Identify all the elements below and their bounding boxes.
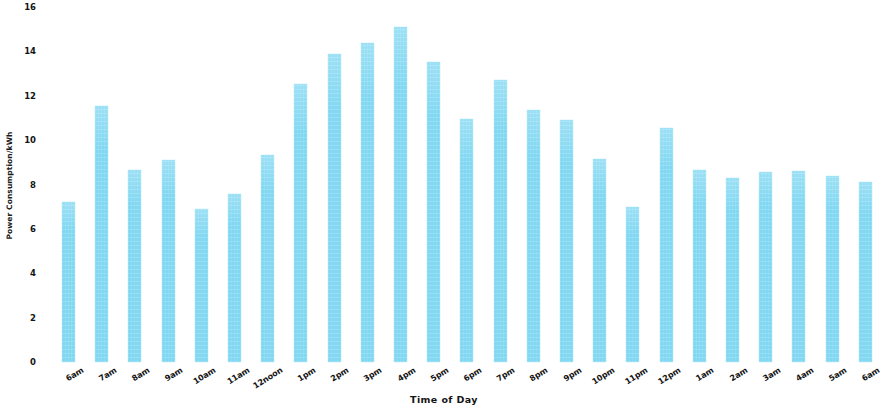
- x-axis-tick-labels: 6am7am8am9am10am11am12noon1pm2pm3pm4pm5p…: [44, 363, 888, 395]
- x-axis-tick-label: 8am: [126, 366, 147, 384]
- bar: [494, 80, 507, 362]
- x-axis-tick-label: 6pm: [457, 366, 478, 384]
- x-axis-tick-label: 12noon: [247, 366, 280, 391]
- x-axis-tick-label: 5am: [823, 366, 844, 384]
- y-axis-tick-0: 0: [30, 357, 36, 367]
- bar: [626, 207, 639, 362]
- x-axis-tick-label: 10pm: [586, 366, 612, 387]
- bar: [859, 182, 872, 362]
- x-axis-tick-label: 11pm: [619, 366, 645, 387]
- bar: [294, 84, 307, 362]
- bar: [228, 194, 241, 362]
- x-axis-tick-label: 9am: [159, 366, 180, 384]
- x-axis-tick-label: 3am: [757, 366, 778, 384]
- x-axis-tick-label: 10am: [188, 366, 214, 387]
- bar: [759, 172, 772, 362]
- bar: [527, 110, 540, 362]
- x-axis-tick-label: 1pm: [291, 366, 312, 384]
- x-axis-tick-label: 4am: [790, 366, 811, 384]
- y-axis-tick-10: 10: [24, 135, 36, 145]
- x-axis-tick-label: 6am: [856, 366, 877, 384]
- x-axis-tick-label: 1am: [690, 366, 711, 384]
- x-axis-tick-label: 7pm: [491, 366, 512, 384]
- x-axis-tick-label: 5pm: [424, 366, 445, 384]
- bar: [460, 119, 473, 362]
- y-axis-tick-2: 2: [30, 313, 36, 323]
- x-axis-tick-label: 7am: [93, 366, 114, 384]
- y-axis-tick-8: 8: [30, 180, 36, 190]
- y-axis-tick-6: 6: [30, 224, 36, 234]
- y-axis-title-text: Power Consumption/kWh: [5, 131, 14, 239]
- x-axis-tick-label: 4pm: [391, 366, 412, 384]
- bar: [826, 176, 839, 362]
- bar: [792, 171, 805, 362]
- x-axis-tick-label: 2pm: [325, 366, 346, 384]
- bar: [128, 170, 141, 362]
- bar: [361, 43, 374, 363]
- x-axis-title: Time of Day: [0, 394, 888, 405]
- x-axis-tick-label: 6am: [59, 366, 80, 384]
- bar: [660, 128, 673, 362]
- bar: [62, 202, 75, 362]
- y-axis-tick-14: 14: [24, 46, 36, 56]
- bar: [162, 160, 175, 362]
- bar: [261, 155, 274, 362]
- bar: [560, 120, 573, 362]
- y-axis-tick-12: 12: [24, 91, 36, 101]
- x-axis-tick-label: 9pm: [557, 366, 578, 384]
- x-axis-tick-label: 2am: [723, 366, 744, 384]
- x-axis-tick-label: 12pm: [652, 366, 678, 387]
- bar: [95, 106, 108, 362]
- x-axis-tick-label: 8pm: [524, 366, 545, 384]
- y-axis-tick-4: 4: [30, 268, 36, 278]
- plot-area: [44, 0, 888, 363]
- y-axis-tick-16: 16: [24, 2, 36, 12]
- bar: [328, 54, 341, 362]
- y-axis-title: Power Consumption/kWh: [0, 0, 18, 370]
- bar: [427, 62, 440, 362]
- bar: [593, 159, 606, 362]
- bar: [726, 178, 739, 362]
- bar: [394, 27, 407, 362]
- x-axis-tick-label: 3pm: [358, 366, 379, 384]
- bar-chart: Power Consumption/kWh 0246810121416 6am7…: [0, 0, 888, 412]
- bar: [693, 170, 706, 362]
- y-axis-tick-labels: 0246810121416: [18, 0, 40, 370]
- bar: [195, 209, 208, 362]
- x-axis-tick-label: 11am: [221, 366, 247, 387]
